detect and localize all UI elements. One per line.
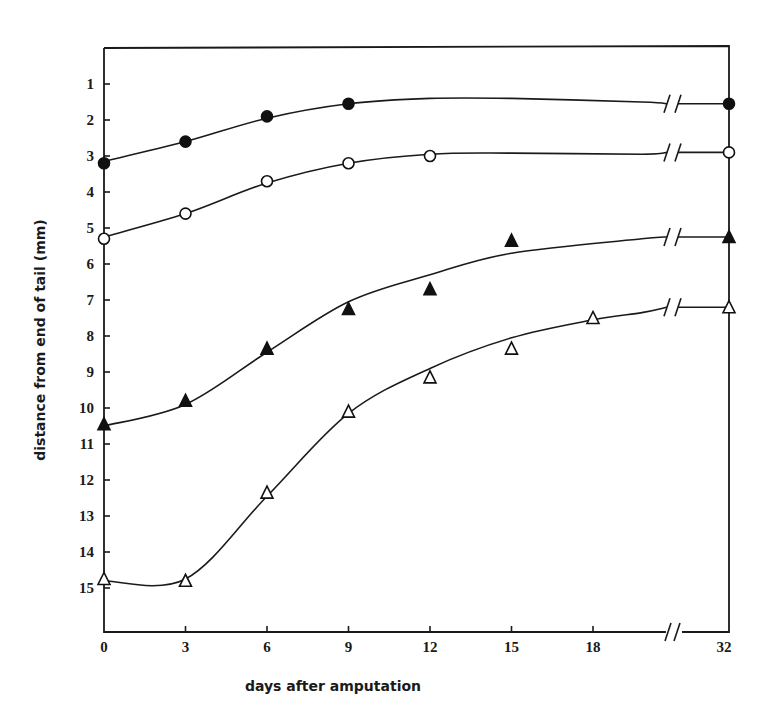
filled-circle-marker bbox=[343, 98, 354, 109]
y-axis-label: distance from end of tail (mm) bbox=[32, 219, 48, 461]
x-axis-label: days after amputation bbox=[245, 678, 421, 694]
x-tick-label: 15 bbox=[504, 639, 519, 655]
y-axis: 123456789101112131415 bbox=[79, 76, 110, 596]
plot-frame bbox=[104, 46, 729, 641]
filled-triangle-marker bbox=[180, 394, 192, 406]
x-tick-label: 18 bbox=[586, 639, 601, 655]
open-triangle-marker bbox=[98, 573, 110, 585]
fitted-curve bbox=[104, 98, 667, 162]
open-triangle-marker bbox=[587, 312, 599, 324]
open-triangle-marker bbox=[506, 342, 518, 354]
y-tick-label: 4 bbox=[87, 184, 95, 200]
filled-circle-marker bbox=[99, 158, 110, 169]
frame-top-right bbox=[104, 46, 729, 632]
y-tick-label: 11 bbox=[80, 436, 94, 452]
y-tick-label: 13 bbox=[79, 508, 94, 524]
filled-circle-marker bbox=[724, 98, 735, 109]
filled-triangle-marker bbox=[261, 342, 273, 354]
x-tick-label: 3 bbox=[182, 639, 190, 655]
x-axis: 036912151832 bbox=[100, 626, 731, 655]
x-tick-label: 12 bbox=[423, 639, 438, 655]
y-tick-label: 9 bbox=[87, 364, 95, 380]
filled-circle-marker bbox=[180, 136, 191, 147]
y-tick-label: 7 bbox=[87, 292, 95, 308]
open-circle-marker bbox=[262, 176, 273, 187]
y-tick-label: 3 bbox=[87, 148, 95, 164]
open-triangle-marker bbox=[424, 371, 436, 383]
x-tick-label: 0 bbox=[100, 639, 108, 655]
fitted-curves bbox=[104, 95, 729, 586]
y-tick-label: 8 bbox=[87, 328, 95, 344]
y-tick-label: 14 bbox=[79, 544, 95, 560]
fitted-curve bbox=[104, 237, 667, 426]
open-circle-marker bbox=[724, 147, 735, 158]
y-tick-label: 6 bbox=[87, 256, 95, 272]
fitted-curve bbox=[104, 307, 667, 585]
filled-circle-marker bbox=[262, 111, 273, 122]
open-circle-marker bbox=[180, 208, 191, 219]
x-tick-label: 6 bbox=[263, 639, 271, 655]
fitted-curve bbox=[104, 152, 667, 237]
y-tick-label: 1 bbox=[87, 76, 95, 92]
y-tick-label: 5 bbox=[87, 220, 95, 236]
y-tick-label: 10 bbox=[79, 400, 94, 416]
x-tick-label: 32 bbox=[717, 639, 732, 655]
filled-triangle-marker bbox=[98, 418, 110, 430]
open-circle-marker bbox=[343, 158, 354, 169]
y-tick-label: 15 bbox=[79, 580, 94, 596]
open-circle-marker bbox=[425, 151, 436, 162]
y-tick-label: 2 bbox=[87, 112, 95, 128]
data-markers bbox=[98, 98, 735, 586]
frame-left-bottom bbox=[104, 48, 666, 632]
open-circle-marker bbox=[99, 233, 110, 244]
filled-triangle-marker bbox=[506, 234, 518, 246]
chart: 123456789101112131415 036912151832 days … bbox=[0, 0, 768, 726]
y-tick-label: 12 bbox=[79, 472, 94, 488]
filled-triangle-marker bbox=[424, 283, 436, 295]
x-tick-label: 9 bbox=[345, 639, 353, 655]
axis-break-mark bbox=[674, 623, 680, 641]
